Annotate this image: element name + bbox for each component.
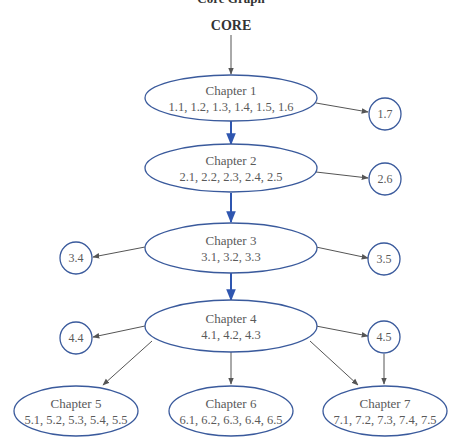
chapter-sections: 1.1, 1.2, 1.3, 1.4, 1.5, 1.6 — [169, 100, 294, 114]
chapter-sections: 3.1, 3.2, 3.3 — [201, 250, 260, 264]
chapter-sections: 2.1, 2.2, 2.3, 2.4, 2.5 — [179, 170, 282, 184]
edge-ch4-to-ch7 — [310, 341, 358, 385]
section-node-4-4: 4.4 — [60, 322, 92, 354]
chapter-node-5: Chapter 5 5.1, 5.2, 5.3, 5.4, 5.5 — [14, 386, 138, 436]
chapter-title: Chapter 4 — [206, 311, 257, 326]
chapter-node-4: Chapter 4 4.1, 4.2, 4.3 — [145, 300, 317, 352]
edge-ch3-to-3-5 — [316, 247, 368, 258]
chapter-node-1: Chapter 1 1.1, 1.2, 1.3, 1.4, 1.5, 1.6 — [145, 75, 317, 121]
chapter-title: Chapter 1 — [206, 83, 257, 98]
edge-ch4-to-4-4 — [93, 326, 145, 337]
edge-ch4-to-ch5 — [103, 341, 152, 385]
section-node-1-7: 1.7 — [369, 98, 401, 130]
section-label: 4.5 — [377, 330, 392, 344]
chapter-sections: 4.1, 4.2, 4.3 — [201, 328, 260, 342]
chapter-node-7: Chapter 7 7.1, 7.2, 7.3, 7.4, 7.5 — [323, 386, 447, 436]
chapter-node-3: Chapter 3 3.1, 3.2, 3.3 — [145, 223, 317, 273]
chapter-sections: 6.1, 6.2, 6.3, 6.4, 6.5 — [179, 413, 282, 427]
chapter-title: Chapter 5 — [51, 396, 102, 411]
section-label: 4.4 — [69, 331, 84, 345]
section-label: 3.5 — [377, 252, 392, 266]
chapter-sections: 5.1, 5.2, 5.3, 5.4, 5.5 — [24, 413, 127, 427]
section-label: 1.7 — [378, 107, 393, 121]
chapter-title: Chapter 7 — [360, 396, 411, 411]
section-node-4-5: 4.5 — [368, 321, 400, 353]
diagram-title-cutoff: Core Graph — [197, 0, 265, 6]
chapter-title: Chapter 2 — [206, 153, 257, 168]
chapter-dependency-diagram: Core Graph CORE Chapter 1 1.1, 1.2, 1.3,… — [0, 0, 462, 446]
edge-ch4-to-4-5 — [316, 326, 368, 336]
section-node-3-4: 3.4 — [60, 242, 92, 274]
chapter-sections: 7.1, 7.2, 7.3, 7.4, 7.5 — [333, 413, 436, 427]
chapter-title: Chapter 6 — [206, 396, 257, 411]
chapter-title: Chapter 3 — [206, 233, 257, 248]
chapter-node-2: Chapter 2 2.1, 2.2, 2.3, 2.4, 2.5 — [145, 144, 317, 192]
edge-ch2-to-2-6 — [316, 172, 368, 178]
edge-ch3-to-3-4 — [93, 247, 145, 257]
core-label: CORE — [211, 18, 251, 33]
chapter-node-6: Chapter 6 6.1, 6.2, 6.3, 6.4, 6.5 — [169, 386, 293, 436]
edge-ch1-to-1-7 — [316, 103, 368, 112]
section-label: 3.4 — [69, 251, 84, 265]
section-node-3-5: 3.5 — [368, 243, 400, 275]
section-node-2-6: 2.6 — [369, 163, 401, 195]
section-label: 2.6 — [378, 172, 393, 186]
